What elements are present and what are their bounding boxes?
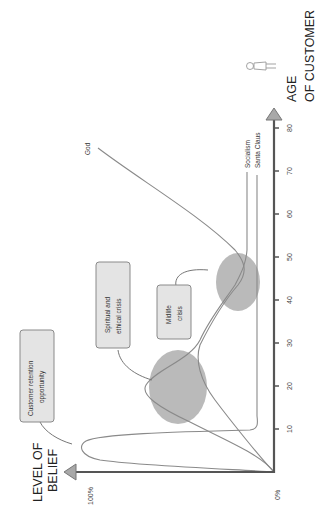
tick-label-50: 50 [286,253,293,261]
tick-label-30: 30 [286,339,293,347]
retention-callout-line2: opportunity [38,370,46,403]
belief-min-label: 0% [274,490,281,500]
tick-label-60: 60 [286,210,293,218]
midlife-callout-box [157,285,191,339]
age-axis-title-line2: OF CUSTOMER [303,10,317,102]
tick-label-70: 70 [286,167,293,175]
midlife-leader-line [176,270,208,286]
label-santa-claus: Santa Claus [254,132,261,168]
spiritual-leader-line [118,350,152,380]
label-god: God [84,142,91,155]
tick-label-80: 80 [286,124,293,132]
belief-axis-title-line2: BELIEF [46,449,60,492]
belief-max-label: 100% [87,487,94,505]
retention-callout-box [20,330,54,422]
age-axis-title-line1: AGE [285,76,299,102]
tick-label-10: 10 [286,425,293,433]
midlife-callout-line2: crisis [176,305,183,321]
age-axis-arrow-icon [266,108,282,120]
retention-callout-line1: Customer retention [27,360,34,416]
belief-axis-title-line1: LEVEL OF [31,442,45,502]
tick-label-40: 40 [286,296,293,304]
spiritual-callout-box [96,262,130,348]
belief-by-age-chart: 10 20 30 40 50 60 70 80 0% 100% LEVEL OF… [0,0,326,522]
person-outline-icon [247,62,277,70]
tick-label-20: 20 [286,382,293,390]
spiritual-callout-line2: ethical crisis [115,298,122,334]
midlife-callout-line1: Midlife [165,305,172,324]
label-socialism: Socialism [244,140,251,168]
belief-axis-arrow-icon [64,464,76,480]
retention-leader-line [40,422,72,444]
spiritual-callout-line1: Spiritual and [104,296,112,333]
